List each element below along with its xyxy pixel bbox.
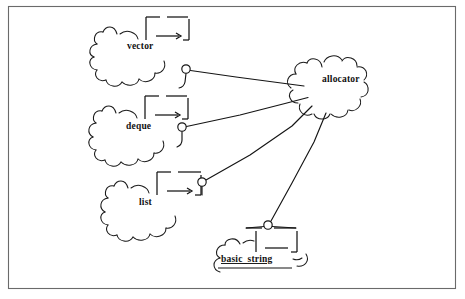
package-cloud-icon (287, 56, 368, 119)
diagram-svg: vector (0, 0, 465, 299)
package-rect-icon (145, 96, 188, 119)
package-cloud-icon (89, 106, 164, 166)
package-cloud-icon (101, 181, 176, 241)
node-label-list: list (139, 197, 153, 207)
diagram-canvas: vector (0, 0, 465, 299)
interface-socket-basic-string[interactable] (264, 221, 272, 229)
connector-list-allocator (206, 106, 312, 180)
package-rect-icon (146, 17, 189, 40)
node-basic-string[interactable]: basic_string (214, 221, 308, 272)
connector-basicstring-allocator (271, 113, 326, 221)
interface-socket-deque[interactable] (178, 123, 186, 131)
node-label-allocator: allocator (322, 74, 360, 84)
socket-stem-vector (179, 74, 186, 89)
node-vector[interactable]: vector (90, 17, 190, 88)
node-deque[interactable]: deque (89, 96, 188, 166)
package-cloud-icon (90, 27, 165, 86)
node-list[interactable]: list (101, 172, 206, 241)
node-label-deque: deque (126, 121, 151, 131)
interface-socket-list[interactable] (198, 178, 206, 186)
package-rect-icon (157, 172, 201, 195)
node-label-basic-string: basic_string (221, 254, 273, 264)
interface-socket-vector[interactable] (182, 65, 190, 73)
node-allocator[interactable]: allocator (287, 56, 368, 119)
node-label-vector: vector (127, 41, 154, 51)
connector-vector-allocator (191, 71, 305, 87)
connector-deque-allocator (187, 98, 309, 127)
package-rect-icon (246, 228, 297, 252)
figure-frame (9, 7, 456, 289)
socket-stem-deque (177, 132, 182, 148)
